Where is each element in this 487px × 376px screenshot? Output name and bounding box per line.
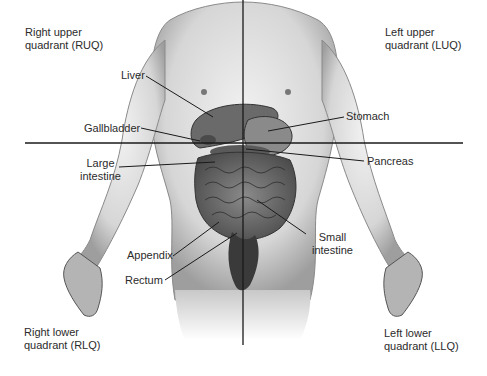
pancreas-label: Pancreas [367, 155, 413, 168]
rlq-label: Right lower quadrant (RLQ) [24, 326, 100, 352]
llq-label: Left lower quadrant (LLQ) [384, 327, 459, 353]
ruq-label: Right upper quadrant (RUQ) [25, 26, 103, 52]
appendix-label: Appendix [127, 249, 173, 262]
stomach-label: Stomach [346, 110, 389, 123]
intestines-organ [195, 152, 296, 240]
small-intestine-label: Small intestine [312, 231, 353, 257]
abdominal-quadrants-diagram: Right upper quadrant (RUQ) Left upper qu… [0, 0, 487, 376]
gallbladder-label: Gallbladder [84, 122, 140, 135]
liver-label: Liver [121, 69, 145, 82]
body-illustration [0, 0, 487, 376]
luq-label: Left upper quadrant (LUQ) [385, 26, 461, 52]
rectum-label: Rectum [125, 274, 163, 287]
large-intestine-label: Large intestine [80, 157, 121, 183]
